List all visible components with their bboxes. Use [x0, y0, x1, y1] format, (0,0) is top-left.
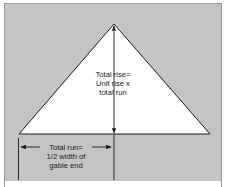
run-label-line1: Total run= [49, 143, 83, 152]
gable-roof-diagram: Total rise= Unit rise x total run Total … [0, 0, 226, 187]
rise-label-line2: Unit rise x [96, 79, 130, 88]
run-label-line2: 1/2 width of [47, 152, 87, 161]
rise-label-line3: total run [99, 88, 126, 97]
run-label-line3: gable end [49, 161, 82, 170]
rise-label-line1: Total rise= [96, 70, 131, 79]
